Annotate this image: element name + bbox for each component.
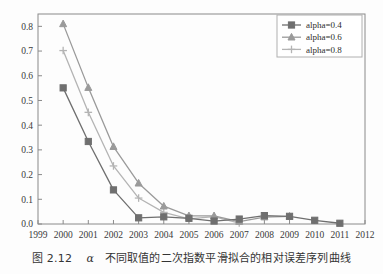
x-axis-tick-label: 2006 [205, 230, 224, 240]
caption-alpha-symbol: α [87, 252, 95, 265]
x-axis-tick-label: 2011 [331, 230, 350, 240]
x-axis-tick-label: 2003 [129, 230, 148, 240]
data-point-square-marker [60, 85, 66, 91]
data-point-square-marker [286, 213, 292, 219]
data-point-square-marker [186, 215, 192, 221]
x-axis-tick-label: 2001 [79, 230, 98, 240]
legend-item-alpha-0-8[interactable]: alpha=0.8 [282, 45, 342, 55]
data-point-square-marker [236, 216, 242, 222]
y-axis-tick-label: 0.2 [21, 170, 33, 180]
data-point-square-marker [337, 220, 343, 226]
legend-item-label: alpha=0.4 [306, 20, 342, 30]
y-axis-tick-label: 0.5 [21, 96, 33, 106]
series-alpha-0-8 [59, 47, 243, 227]
series-line [63, 51, 239, 223]
y-axis-tick-label: 0.6 [21, 71, 33, 81]
data-point-triangle-marker [85, 84, 92, 91]
data-point-square-marker [161, 214, 167, 220]
data-point-plus-marker [85, 109, 93, 117]
data-point-square-marker [312, 217, 318, 223]
data-point-square-marker [211, 218, 217, 224]
data-point-square-marker [261, 213, 267, 219]
caption-body: 不同取值的二次指数平滑拟合的相对误差序列曲线 [105, 252, 351, 265]
x-axis-tick-label: 2010 [305, 230, 324, 240]
x-axis-tick-label: 2000 [54, 230, 73, 240]
legend-square-marker [288, 22, 294, 28]
legend-item-label: alpha=0.6 [306, 32, 342, 42]
figure-caption: 图 2.12 α 不同取值的二次指数平滑拟合的相对误差序列曲线 [0, 249, 383, 265]
x-axis-tick-label: 2002 [104, 230, 123, 240]
series-line [63, 88, 340, 223]
y-axis-tick-label: 0.8 [21, 22, 33, 32]
y-axis-tick-label: 0.3 [21, 145, 33, 155]
x-axis-tick-label: 2005 [179, 230, 198, 240]
relative-error-line-chart: 0.00.10.20.30.40.50.60.70.81999200020012… [0, 0, 383, 249]
x-axis-tick-label: 2009 [280, 230, 299, 240]
series-line [63, 24, 289, 222]
y-axis-tick-label: 0.0 [21, 219, 33, 229]
x-axis-tick-label: 1999 [29, 230, 48, 240]
x-axis-tick-label: 2008 [255, 230, 274, 240]
x-axis-tick-label: 2012 [356, 230, 375, 240]
x-axis-tick-label: 2007 [230, 230, 249, 240]
legend: alpha=0.4alpha=0.6alpha=0.8 [277, 15, 362, 57]
data-point-square-marker [110, 187, 116, 193]
series-alpha-0-6 [60, 20, 293, 224]
legend-item-label: alpha=0.8 [306, 45, 342, 55]
y-axis-tick-label: 0.4 [21, 121, 33, 131]
y-axis-tick-label: 0.7 [21, 46, 33, 56]
data-point-triangle-marker [110, 143, 117, 150]
caption-prefix: 图 2.12 [32, 252, 72, 265]
y-axis-tick-label: 0.1 [21, 195, 33, 205]
data-point-plus-marker [59, 47, 67, 55]
figure-container: 0.00.10.20.30.40.50.60.70.81999200020012… [0, 0, 383, 274]
data-point-square-marker [136, 215, 142, 221]
data-point-square-marker [85, 138, 91, 144]
data-point-triangle-marker [60, 20, 67, 27]
x-axis-tick-label: 2004 [154, 230, 173, 240]
series-alpha-0-4 [60, 85, 343, 227]
